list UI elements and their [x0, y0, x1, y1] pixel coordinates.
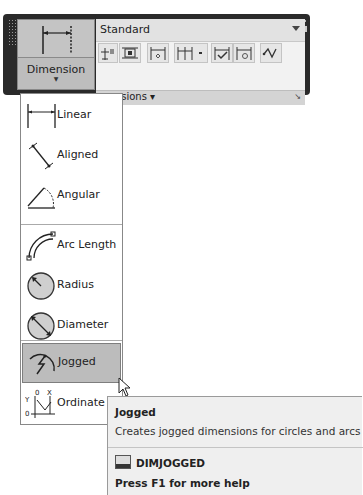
panel-content: Standard mensions ▾ ↘: [96, 19, 305, 104]
diameter-icon: [25, 310, 57, 342]
dimension-style-dropdown[interactable]: Standard: [96, 19, 305, 42]
arc-length-icon: [25, 230, 57, 262]
svg-text:0: 0: [35, 389, 39, 397]
baseline-dimension-icon[interactable]: [174, 43, 208, 63]
jogged-icon: [26, 347, 58, 379]
chevron-down-icon: [292, 26, 300, 31]
menu-separator: [21, 224, 122, 225]
radius-icon: [25, 270, 57, 302]
aligned-icon: [25, 140, 57, 172]
tooltip-help: Press F1 for more help: [115, 477, 250, 489]
panel-title-bar[interactable]: mensions ▾ ↘: [96, 90, 305, 105]
menu-item-radius[interactable]: Radius: [21, 266, 122, 306]
menu-item-aligned[interactable]: Aligned: [21, 136, 122, 176]
chevron-down-icon: ▼: [18, 76, 94, 82]
menu-item-angular[interactable]: Angular: [21, 176, 122, 216]
angular-icon: [25, 180, 57, 212]
inspect-dimension-icon[interactable]: [211, 43, 233, 63]
dimension-space-icon[interactable]: [147, 43, 169, 63]
panel-gripper[interactable]: [8, 19, 16, 45]
dimension-style-value: Standard: [100, 23, 150, 36]
linear-icon: [25, 100, 57, 132]
tooltip-description: Creates jogged dimensions for circles an…: [115, 425, 360, 437]
mouse-cursor-icon: [118, 377, 132, 397]
quick-dimension-icon[interactable]: [98, 43, 118, 63]
menu-item-jogged[interactable]: Jogged: [22, 343, 121, 383]
tooltip: Jogged Creates jogged dimensions for cir…: [107, 396, 362, 495]
continue-dimension-icon[interactable]: [119, 43, 141, 63]
dimension-split-button[interactable]: Dimension ▼: [17, 19, 95, 90]
tooltip-command: DIMJOGGED: [115, 455, 205, 469]
update-dimension-icon[interactable]: [233, 43, 255, 63]
dialog-launcher-icon[interactable]: ↘: [294, 92, 301, 101]
svg-text:X: X: [47, 389, 52, 397]
dimension-jog-line-icon[interactable]: [260, 43, 282, 63]
linear-dimension-icon: [18, 20, 94, 58]
menu-item-arc-length[interactable]: Arc Length: [21, 226, 122, 266]
svg-text:Y: Y: [25, 396, 30, 404]
ordinate-icon: Y 0 X 0: [25, 388, 57, 420]
tooltip-title: Jogged: [115, 406, 156, 418]
svg-text:0: 0: [25, 410, 29, 418]
tooltip-separator: [108, 447, 363, 448]
dimension-dropdown-menu: Linear Aligned Angular Arc Length: [20, 93, 123, 425]
menu-separator: [21, 340, 122, 341]
menu-item-linear[interactable]: Linear: [21, 96, 122, 136]
command-line-icon: [115, 455, 131, 469]
